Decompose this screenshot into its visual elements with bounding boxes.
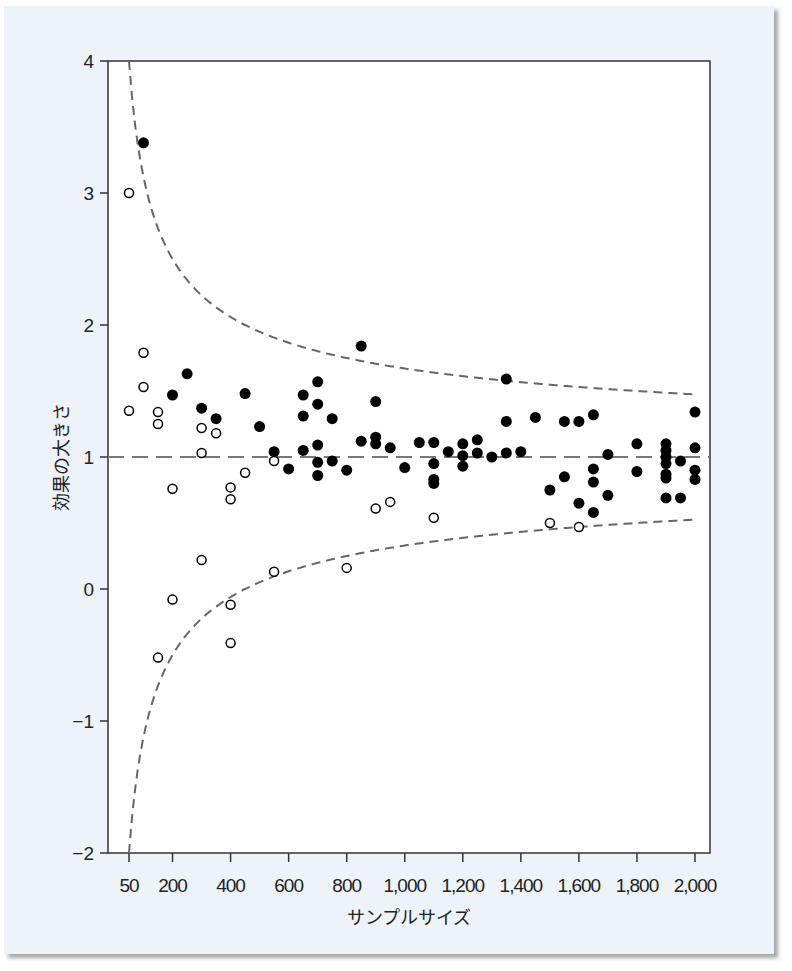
filled-point xyxy=(312,440,323,451)
filled-point xyxy=(312,376,323,387)
filled-point xyxy=(370,438,381,449)
filled-point xyxy=(356,341,367,352)
x-tick-label: 400 xyxy=(216,875,245,896)
filled-point xyxy=(341,465,352,476)
filled-point xyxy=(501,448,512,459)
filled-point xyxy=(428,458,439,469)
filled-point xyxy=(675,456,686,467)
y-tick-label: 4 xyxy=(83,51,94,72)
filled-point xyxy=(690,442,701,453)
open-point xyxy=(154,653,163,662)
x-tick-label: 800 xyxy=(332,875,361,896)
filled-point xyxy=(690,474,701,485)
x-tick-label: 1,600 xyxy=(558,875,601,896)
open-point xyxy=(139,383,148,392)
filled-point xyxy=(283,463,294,474)
filled-point xyxy=(196,403,207,414)
x-tick-label: 50 xyxy=(119,875,139,896)
x-axis-title: サンプルサイズ xyxy=(347,908,471,928)
filled-point xyxy=(602,449,613,460)
filled-point xyxy=(588,507,599,518)
filled-point xyxy=(457,461,468,472)
filled-point xyxy=(428,437,439,448)
filled-point xyxy=(443,446,454,457)
filled-point xyxy=(312,470,323,481)
filled-point xyxy=(544,485,555,496)
open-point xyxy=(212,429,221,438)
open-point xyxy=(270,457,279,466)
filled-point xyxy=(182,368,193,379)
filled-point xyxy=(501,416,512,427)
y-tick-label: 0 xyxy=(83,579,94,600)
open-point xyxy=(125,189,134,198)
filled-point xyxy=(559,471,570,482)
filled-point xyxy=(385,442,396,453)
open-point xyxy=(226,483,235,492)
filled-point xyxy=(675,492,686,503)
open-point xyxy=(270,567,279,576)
x-tick-label: 1,000 xyxy=(383,875,426,896)
y-tick-label: 2 xyxy=(83,315,94,336)
filled-point xyxy=(298,411,309,422)
filled-point xyxy=(327,413,338,424)
filled-point xyxy=(501,374,512,385)
filled-point xyxy=(690,407,701,418)
filled-point xyxy=(661,458,672,469)
filled-point xyxy=(428,478,439,489)
filled-point xyxy=(530,412,541,423)
x-tick-label: 1,400 xyxy=(500,875,543,896)
filled-point xyxy=(298,445,309,456)
open-point xyxy=(545,519,554,528)
open-point xyxy=(168,595,177,604)
y-axis-title: 効果の大きさ xyxy=(52,403,72,511)
filled-point xyxy=(486,452,497,463)
filled-point xyxy=(602,490,613,501)
filled-point xyxy=(472,434,483,445)
open-point xyxy=(226,495,235,504)
open-point xyxy=(154,408,163,417)
filled-point xyxy=(457,438,468,449)
funnel-plot: −2−101234 502004006008001,0001,2001,4001… xyxy=(0,0,792,971)
filled-point xyxy=(167,390,178,401)
y-tick-label: −1 xyxy=(72,711,94,732)
x-tick-label: 1,200 xyxy=(442,875,485,896)
open-point xyxy=(168,484,177,493)
open-point xyxy=(241,468,250,477)
x-axis: 502004006008001,0001,2001,4001,6001,8002… xyxy=(119,853,716,896)
filled-point xyxy=(573,498,584,509)
filled-point xyxy=(588,477,599,488)
filled-point xyxy=(414,437,425,448)
y-tick-label: −2 xyxy=(72,843,94,864)
open-point xyxy=(226,639,235,648)
open-point xyxy=(154,420,163,429)
filled-point xyxy=(254,421,265,432)
filled-point xyxy=(312,399,323,410)
open-point xyxy=(342,563,351,572)
filled-point xyxy=(327,456,338,467)
x-tick-label: 600 xyxy=(274,875,303,896)
open-point xyxy=(371,504,380,513)
filled-point xyxy=(457,450,468,461)
filled-point xyxy=(631,466,642,477)
filled-point xyxy=(588,409,599,420)
open-point xyxy=(197,424,206,433)
x-tick-label: 2,000 xyxy=(674,875,717,896)
open-point xyxy=(197,556,206,565)
open-point xyxy=(386,497,395,506)
y-tick-label: 3 xyxy=(83,183,94,204)
filled-point xyxy=(573,416,584,427)
filled-point xyxy=(356,436,367,447)
filled-point xyxy=(661,492,672,503)
filled-point xyxy=(240,388,251,399)
filled-point xyxy=(515,446,526,457)
y-tick-label: 1 xyxy=(83,447,94,468)
open-point xyxy=(226,600,235,609)
filled-point xyxy=(211,413,222,424)
filled-point xyxy=(631,438,642,449)
filled-point xyxy=(559,416,570,427)
filled-point xyxy=(370,396,381,407)
filled-point xyxy=(661,473,672,484)
filled-point xyxy=(399,462,410,473)
filled-point xyxy=(138,137,149,148)
filled-point xyxy=(312,457,323,468)
